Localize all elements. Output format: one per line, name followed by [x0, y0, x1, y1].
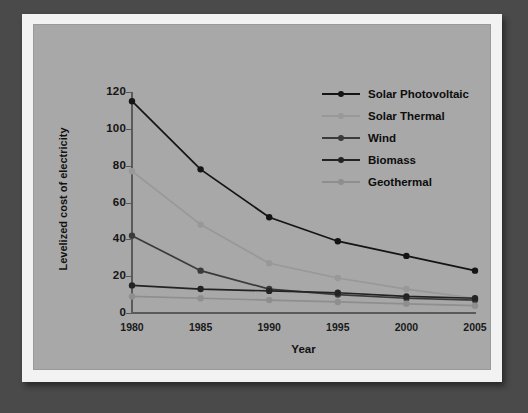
data-point: [266, 260, 272, 266]
legend-marker-dot: [338, 91, 344, 97]
data-point: [403, 253, 409, 259]
legend-marker-dot: [338, 113, 344, 119]
legend-swatch-icon: [322, 154, 360, 166]
chart-plot-area: 020406080100120 198019851990199520002005…: [33, 24, 491, 370]
data-point: [335, 299, 341, 305]
legend-swatch-icon: [322, 88, 360, 100]
y-tick-label: 0: [86, 306, 126, 318]
legend-swatch-icon: [322, 132, 360, 144]
y-tick-label: 60: [86, 196, 126, 208]
data-point: [403, 286, 409, 292]
legend-label: Wind: [368, 132, 396, 144]
data-point: [197, 221, 203, 227]
y-axis-title: Levelized cost of electricity: [57, 104, 69, 294]
y-tick-mark: [126, 239, 131, 240]
legend-label: Biomass: [368, 154, 416, 166]
y-tick-label: 100: [86, 122, 126, 134]
data-point: [472, 302, 478, 308]
y-tick-mark: [126, 276, 131, 277]
data-point: [403, 295, 409, 301]
legend-item-geothermal[interactable]: Geothermal: [322, 171, 469, 193]
y-tick-120: 120: [78, 85, 126, 99]
data-point: [403, 293, 409, 299]
y-tick-mark: [126, 166, 131, 167]
x-axis-line: [131, 312, 476, 314]
series-biomass: [129, 282, 478, 301]
data-point: [335, 275, 341, 281]
x-tick-1990: 1990: [247, 321, 291, 333]
y-tick-label: 120: [86, 85, 126, 97]
y-tick-40: 40: [78, 232, 126, 246]
data-point: [472, 295, 478, 301]
series-line: [132, 285, 475, 298]
legend-swatch-icon: [322, 110, 360, 122]
legend-marker-dot: [338, 157, 344, 163]
data-point: [472, 297, 478, 303]
legend-label: Solar Thermal: [368, 110, 445, 122]
legend-item-biomass[interactable]: Biomass: [322, 149, 469, 171]
legend-item-solar-thermal[interactable]: Solar Thermal: [322, 105, 469, 127]
data-point: [403, 301, 409, 307]
series-line: [132, 236, 475, 300]
data-point: [335, 291, 341, 297]
data-point: [335, 290, 341, 296]
series-wind: [129, 232, 478, 303]
figure-root: 020406080100120 198019851990199520002005…: [0, 0, 528, 413]
y-tick-60: 60: [78, 196, 126, 210]
data-point: [197, 286, 203, 292]
data-point: [266, 288, 272, 294]
x-tick-2005: 2005: [453, 321, 491, 333]
legend-item-wind[interactable]: Wind: [322, 127, 469, 149]
data-point: [197, 166, 203, 172]
data-point: [266, 214, 272, 220]
x-tick-1985: 1985: [179, 321, 223, 333]
y-tick-100: 100: [78, 122, 126, 136]
y-tick-mark: [126, 129, 131, 130]
figure-mat: 020406080100120 198019851990199520002005…: [22, 14, 502, 382]
x-tick-1980: 1980: [110, 321, 154, 333]
data-point: [335, 238, 341, 244]
legend-marker-dot: [338, 135, 344, 141]
y-tick-label: 40: [86, 232, 126, 244]
y-tick-mark: [126, 203, 131, 204]
y-tick-mark: [126, 92, 131, 93]
y-tick-label: 80: [86, 159, 126, 171]
legend-swatch-icon: [322, 176, 360, 188]
x-axis-title: Year: [131, 343, 476, 355]
data-point: [197, 267, 203, 273]
y-tick-0: 0: [78, 306, 126, 320]
legend-marker-dot: [338, 179, 344, 185]
x-tick-2000: 2000: [384, 321, 428, 333]
data-point: [266, 297, 272, 303]
y-tick-20: 20: [78, 269, 126, 283]
legend-item-solar-photovoltaic[interactable]: Solar Photovoltaic: [322, 83, 469, 105]
data-point: [266, 286, 272, 292]
x-tick-1995: 1995: [316, 321, 360, 333]
data-point: [197, 295, 203, 301]
data-point: [472, 267, 478, 273]
series-geothermal: [129, 293, 478, 309]
legend-label: Geothermal: [368, 176, 432, 188]
y-tick-80: 80: [78, 159, 126, 173]
legend-label: Solar Photovoltaic: [368, 88, 469, 100]
y-tick-mark: [126, 313, 131, 314]
chart-legend: Solar PhotovoltaicSolar ThermalWindBioma…: [322, 83, 469, 193]
data-point: [472, 295, 478, 301]
series-line: [132, 296, 475, 305]
y-tick-label: 20: [86, 269, 126, 281]
y-axis-line: [131, 92, 133, 313]
